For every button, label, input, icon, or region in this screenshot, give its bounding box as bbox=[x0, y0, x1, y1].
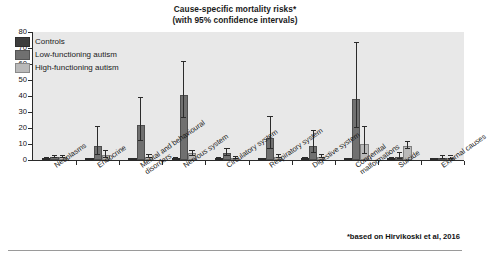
error-bar-cap-upper bbox=[138, 97, 143, 98]
error-bar-cap-lower bbox=[354, 127, 359, 128]
error-bar bbox=[140, 98, 141, 141]
error-bar-cap-lower bbox=[216, 158, 221, 159]
legend-item-label: High-functioning autism bbox=[35, 64, 119, 72]
error-bar-cap-upper bbox=[103, 150, 108, 151]
error-bar-cap-lower bbox=[311, 152, 316, 153]
error-bar-cap-upper bbox=[95, 126, 100, 127]
error-bar-cap-upper bbox=[189, 150, 194, 151]
source-footnote: *based on Hirvikoski et al, 2016 bbox=[347, 232, 460, 241]
y-tick-label: 40 bbox=[19, 92, 27, 100]
legend-item-label: Controls bbox=[35, 38, 65, 46]
legend-item[interactable]: Low-functioning autism bbox=[15, 49, 119, 61]
error-bar-cap-lower bbox=[267, 148, 272, 149]
error-bar-cap-upper bbox=[181, 61, 186, 62]
y-tick-label: 50 bbox=[19, 76, 27, 84]
y-tick-label: 20 bbox=[19, 124, 27, 132]
error-bar bbox=[97, 127, 98, 154]
legend-item-label: Low-functioning autism bbox=[35, 51, 117, 59]
chart-title: Cause-specific mortality risks* (with 95… bbox=[0, 4, 470, 25]
error-bar-cap-lower bbox=[138, 140, 143, 141]
error-bar-cap-upper bbox=[354, 42, 359, 43]
legend-swatch-icon bbox=[15, 50, 30, 60]
error-bar-cap-upper bbox=[52, 155, 57, 156]
error-bar-cap-lower bbox=[95, 154, 100, 155]
chart-title-line-1: Cause-specific mortality risks* bbox=[0, 4, 470, 15]
error-bar bbox=[364, 127, 365, 154]
error-bar-cap-upper bbox=[224, 148, 229, 149]
error-bar-cap-lower bbox=[224, 155, 229, 156]
error-bar-cap-lower bbox=[181, 117, 186, 118]
chart-legend: ControlsLow-functioning autismHigh-funct… bbox=[15, 36, 119, 75]
legend-item[interactable]: Controls bbox=[15, 36, 119, 48]
legend-swatch-icon bbox=[15, 63, 30, 73]
legend-item[interactable]: High-functioning autism bbox=[15, 62, 119, 74]
error-bar bbox=[183, 62, 184, 118]
y-tick-label: 10 bbox=[19, 140, 27, 148]
error-bar-cap-upper bbox=[267, 116, 272, 117]
chart-title-line-2: (with 95% confidence intervals) bbox=[0, 15, 470, 26]
x-axis-category-labels: NeoplasmsEndocrineMental and behavioural… bbox=[0, 163, 470, 225]
bottom-divider bbox=[8, 250, 462, 251]
y-tick-label: 30 bbox=[19, 108, 27, 116]
legend-swatch-icon bbox=[15, 37, 30, 47]
error-bar-cap-lower bbox=[405, 148, 410, 149]
error-bar bbox=[356, 43, 357, 128]
error-bar-cap-upper bbox=[362, 126, 367, 127]
error-bar-cap-upper bbox=[440, 155, 445, 156]
y-tick-label: 80 bbox=[19, 28, 27, 36]
